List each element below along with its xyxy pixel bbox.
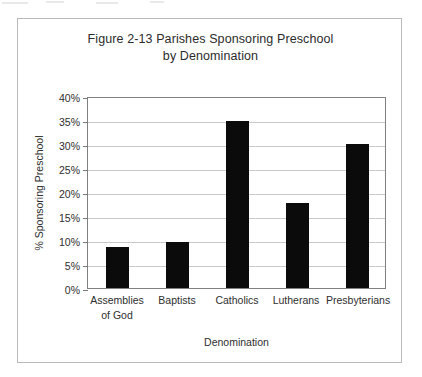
x-axis-category-label-line-1: Assemblies: [90, 294, 144, 306]
y-axis-tick-label: 10%: [59, 236, 80, 248]
x-axis-category-label-line-1: Catholics: [215, 294, 258, 306]
y-axis-title-text: % Sponsoring Preschool: [33, 136, 45, 251]
x-axis-category-label: Catholics: [207, 293, 267, 308]
x-axis-category-label: Lutherans: [266, 293, 326, 308]
x-axis-category-label-line-2: of God: [87, 308, 147, 323]
scan-artifact: [150, 1, 164, 3]
y-axis-tick: [83, 194, 88, 195]
plot-area: 40%35%30%25%20%15%10%5%0%: [87, 97, 386, 289]
y-axis-tick: [83, 98, 88, 99]
chart-title: Figure 2-13 Parishes Sponsoring Preschoo…: [18, 31, 403, 65]
x-axis-title: Denomination: [87, 336, 386, 348]
bar: [166, 242, 189, 288]
x-axis-category-label-line-1: Lutherans: [273, 294, 320, 306]
y-axis-title: % Sponsoring Preschool: [31, 97, 47, 289]
y-axis-tick-label: 20%: [59, 188, 80, 200]
y-axis-tick: [83, 266, 88, 267]
chart-title-line-2: by Denomination: [18, 48, 403, 65]
y-axis-tick-label: 15%: [59, 212, 80, 224]
bar: [226, 121, 249, 288]
figure-page: Figure 2-13 Parishes Sponsoring Preschoo…: [0, 0, 422, 377]
y-axis-tick-label: 0%: [65, 284, 80, 296]
y-axis-tick: [83, 122, 88, 123]
x-axis-category-label-line-1: Baptists: [158, 294, 195, 306]
x-axis-title-text: Denomination: [204, 336, 269, 348]
y-axis-tick-label: 35%: [59, 116, 80, 128]
y-axis-tick: [83, 146, 88, 147]
x-axis-category-label: Presbyterians: [326, 293, 386, 308]
x-axis-category-label-line-1: Presbyterians: [326, 294, 390, 306]
y-axis-tick-label: 5%: [65, 260, 80, 272]
bar: [286, 203, 309, 288]
scan-artifact: [46, 1, 64, 3]
scan-artifact: [96, 2, 118, 4]
y-axis-tick-label: 30%: [59, 140, 80, 152]
bar: [106, 247, 129, 288]
x-axis-category-label: Baptists: [147, 293, 207, 308]
y-axis-tick: [83, 218, 88, 219]
y-axis-tick-label: 25%: [59, 164, 80, 176]
scan-artifact: [2, 2, 28, 4]
y-axis-tick-label: 40%: [59, 92, 80, 104]
x-axis-category-label: Assembliesof God: [87, 293, 147, 323]
y-axis-tick: [83, 242, 88, 243]
bar: [346, 144, 369, 288]
x-axis-category-labels: Assembliesof GodBaptistsCatholicsLuthera…: [87, 293, 386, 331]
chart-title-line-1: Figure 2-13 Parishes Sponsoring Preschoo…: [18, 31, 403, 48]
figure-frame: Figure 2-13 Parishes Sponsoring Preschoo…: [17, 18, 402, 363]
y-axis-tick: [83, 290, 88, 291]
y-axis-tick: [83, 170, 88, 171]
